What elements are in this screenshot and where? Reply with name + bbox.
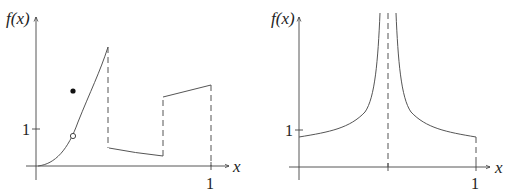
- line-piece-3: [163, 85, 211, 97]
- right-chart: f(x) x 1 1: [271, 9, 503, 192]
- y-axis-label: f(x): [271, 9, 295, 28]
- y-axis-label: f(x): [6, 9, 30, 28]
- y-tick-label-1: 1: [285, 122, 293, 139]
- curve-piece-1: [38, 47, 108, 166]
- left-chart: f(x) x 1 1: [6, 9, 241, 192]
- y-tick-label-1: 1: [22, 121, 30, 138]
- curve-left-branch: [299, 13, 380, 137]
- x-axis-label: x: [494, 158, 503, 177]
- figure: f(x) x 1 1 f(x) x 1 1: [0, 0, 507, 192]
- curve-right-branch: [396, 13, 476, 137]
- x-axis-label: x: [232, 157, 241, 176]
- curve-piece-2: [109, 148, 163, 156]
- filled-point: [70, 88, 75, 93]
- x-tick-label-1: 1: [471, 175, 479, 192]
- x-tick-label-1: 1: [206, 175, 214, 192]
- open-point: [70, 133, 75, 138]
